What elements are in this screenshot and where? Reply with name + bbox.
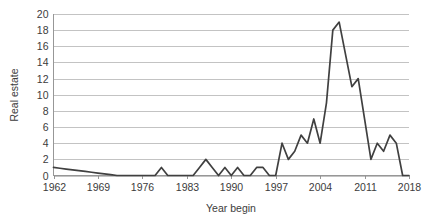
x-axis-tick-labels: 196219691976198319901997200420112018	[43, 181, 422, 193]
y-axis-tick-label: 2	[43, 153, 49, 165]
y-axis-tick-label: 20	[37, 8, 49, 20]
x-axis-tick-label: 1990	[220, 181, 244, 193]
x-axis-tick-label: 1976	[131, 181, 155, 193]
x-axis-tick-label: 1962	[43, 181, 67, 193]
y-axis-tick-label: 6	[43, 121, 49, 133]
x-axis-tick-label: 1983	[176, 181, 200, 193]
x-axis-tick-label: 2018	[398, 181, 422, 193]
x-axis-tick-label: 1997	[265, 181, 289, 193]
y-axis-tick-label: 10	[37, 89, 49, 101]
x-axis-tick-label: 2004	[309, 181, 333, 193]
x-axis-tick-label: 2011	[354, 181, 377, 193]
y-axis-tick-label: 12	[37, 73, 49, 85]
y-axis-tick-label: 4	[43, 137, 49, 149]
line-chart: 02468101214161820 1962196919761983199019…	[0, 0, 440, 224]
x-axis-title: Year begin	[206, 202, 256, 214]
y-axis-title: Real estate	[8, 68, 20, 121]
y-axis-tick-label: 14	[37, 56, 49, 68]
y-axis-tick-label: 18	[37, 24, 49, 36]
y-axis-tick-label: 8	[43, 105, 49, 117]
chart-container: 02468101214161820 1962196919761983199019…	[0, 0, 440, 224]
x-axis-tick-label: 1969	[87, 181, 111, 193]
y-axis-tick-label: 16	[37, 40, 49, 52]
